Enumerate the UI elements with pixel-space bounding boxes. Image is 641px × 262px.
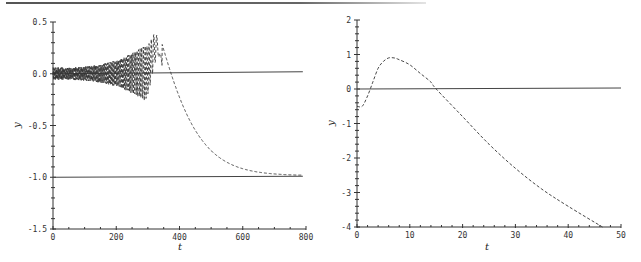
y-tick-label: 0.0 bbox=[33, 70, 48, 79]
left-axes bbox=[50, 22, 306, 230]
x-tick-label: 800 bbox=[299, 233, 314, 242]
x-tick-label: 200 bbox=[109, 233, 124, 242]
x-tick-label: 600 bbox=[236, 233, 251, 242]
left-plot: 0.50.0-0.5-1.0-1.50200400600800 t y bbox=[11, 18, 313, 252]
x-tick-label: 50 bbox=[616, 231, 626, 240]
right-tick-labels: 210-1-2-3-401020304050 bbox=[341, 16, 626, 240]
left-tick-labels: 0.50.0-0.5-1.0-1.50200400600800 bbox=[28, 18, 314, 242]
right-x-axis-label: t bbox=[485, 241, 490, 252]
right-zero-line bbox=[357, 88, 621, 89]
right-axes bbox=[354, 20, 621, 228]
left-dashed-curve bbox=[53, 35, 303, 176]
x-tick-label: 10 bbox=[405, 231, 415, 240]
y-tick-label: 0.5 bbox=[33, 18, 48, 27]
x-tick-label: 30 bbox=[511, 231, 521, 240]
left-y-axis-label: y bbox=[11, 122, 22, 129]
right-plot: 210-1-2-3-401020304050 t y bbox=[325, 16, 626, 252]
y-tick-label: -1 bbox=[341, 120, 351, 129]
left-x-axis-label: t bbox=[178, 241, 183, 252]
y-tick-label: -3 bbox=[341, 189, 351, 198]
y-tick-label: -1.0 bbox=[28, 173, 47, 182]
left-minus-one-line bbox=[53, 176, 303, 177]
right-dashed-curve bbox=[357, 58, 603, 227]
y-tick-label: -0.5 bbox=[28, 122, 47, 131]
x-tick-label: 0 bbox=[355, 231, 360, 240]
x-tick-label: 20 bbox=[458, 231, 468, 240]
y-tick-label: -1.5 bbox=[28, 225, 47, 234]
y-tick-label: 2 bbox=[346, 16, 351, 25]
y-tick-label: -2 bbox=[341, 154, 351, 163]
x-tick-label: 40 bbox=[563, 231, 573, 240]
figure-canvas: 0.50.0-0.5-1.0-1.50200400600800 t y 210-… bbox=[0, 0, 641, 262]
right-y-axis-label: y bbox=[325, 120, 336, 127]
y-tick-label: -4 bbox=[341, 223, 351, 232]
y-tick-label: 1 bbox=[346, 51, 351, 60]
y-tick-label: 0 bbox=[346, 85, 351, 94]
x-tick-label: 0 bbox=[51, 233, 56, 242]
